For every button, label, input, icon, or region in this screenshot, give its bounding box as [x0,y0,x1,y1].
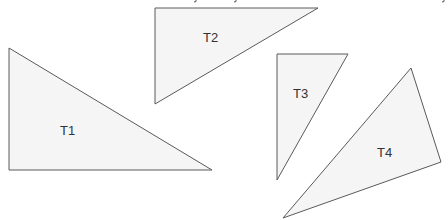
triangle-t3-label: T3 [293,86,308,101]
triangle-t4-label: T4 [377,145,392,160]
text-fragment [442,0,444,2]
text-fragment [234,0,236,2]
text-fragment [194,0,196,2]
triangle-t1-label: T1 [60,123,75,138]
triangle-diagram: T1 T2 T3 T4 [0,0,448,220]
triangle-t2-label: T2 [203,30,218,45]
